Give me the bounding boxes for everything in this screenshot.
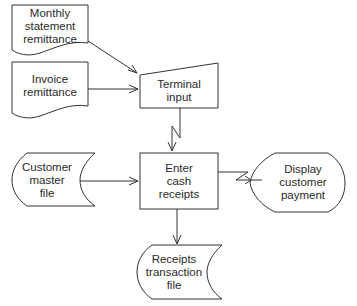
label-line: Terminal [157,78,200,91]
label-line: statement [25,20,76,33]
label-line: master [29,174,64,187]
label-line: Display [284,163,322,176]
label-line: Enter [165,162,193,175]
label-line: payment [281,189,325,202]
label-line: remittance [23,86,77,99]
label-line: Customer [22,161,72,174]
monthly-statement-label: Monthly statement remittance [12,5,88,47]
invoice-label: Invoice remittance [12,70,88,102]
label-line: Receipts [152,253,197,266]
label-line: file [167,279,182,292]
label-line: Invoice [32,73,68,86]
enter-cash-receipts-label: Enter cash receipts [140,154,218,209]
label-line: remittance [23,33,77,46]
label-line: input [167,91,192,104]
label-line: file [40,187,55,200]
receipts-transaction-file-label: Receipts transaction file [140,246,208,298]
label-line: transaction [146,266,202,279]
terminal-input-label: Terminal input [140,76,218,106]
label-line: customer [279,176,326,189]
customer-master-file-label: Customer master file [14,154,80,206]
label-line: cash [167,175,191,188]
display-customer-payment-label: Display customer payment [262,154,344,211]
label-line: Monthly [30,7,70,20]
label-line: receipts [159,188,199,201]
